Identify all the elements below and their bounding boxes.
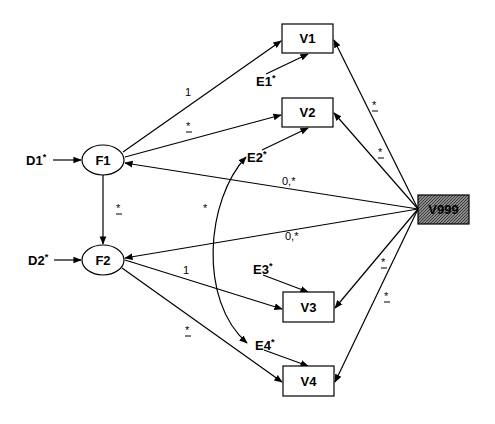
label-f1-v1: 1 [185, 86, 191, 98]
node-v2[interactable]: V2 [282, 98, 333, 127]
label-f1-v2: * [186, 120, 191, 132]
node-v1[interactable]: V1 [282, 24, 333, 53]
edge-v999-v4 [335, 209, 418, 382]
node-f1-label: F1 [95, 153, 110, 168]
node-d2[interactable]: D2* [28, 252, 49, 268]
label-f2-v4: * [185, 324, 190, 336]
node-v1-label: V1 [300, 31, 316, 46]
node-e3-label: E3* [253, 261, 273, 277]
edge-f1-v1 [123, 41, 281, 152]
node-e3[interactable]: E3* [253, 261, 273, 277]
node-d2-label: D2* [28, 252, 49, 268]
edge-e1-v1 [266, 54, 308, 74]
edge-v999-f1 [125, 163, 418, 209]
node-e1[interactable]: E1* [256, 73, 276, 89]
edge-v999-f2 [125, 209, 418, 258]
label-v999-v2: * [378, 146, 383, 158]
edge-e2-e4-covariance [213, 157, 247, 343]
node-d1-label: D1* [26, 152, 47, 168]
label-f1-f2: * [116, 202, 121, 214]
edge-v999-v3 [335, 209, 418, 308]
edges [53, 40, 418, 382]
edge-v999-v1 [334, 40, 418, 209]
node-f2[interactable]: F2 [82, 245, 124, 275]
label-v999-v1: * [372, 99, 377, 111]
node-d1[interactable]: D1* [26, 152, 47, 168]
node-e2[interactable]: E2* [247, 149, 267, 165]
label-v999-f2: 0,* [285, 230, 299, 242]
edge-f2-v4 [122, 268, 282, 382]
label-e2-e4: * [203, 202, 208, 214]
edge-v999-v2 [334, 113, 418, 209]
label-v999-v4: * [384, 290, 389, 302]
node-v4-label: V4 [301, 374, 318, 389]
node-v3[interactable]: V3 [283, 292, 334, 322]
node-v999[interactable]: V999 [418, 195, 469, 224]
edge-labels: 1 * * 1 * 0,* 0,* * * * * * [116, 86, 390, 336]
node-f2-label: F2 [95, 253, 110, 268]
label-f2-v3: 1 [183, 264, 189, 276]
node-v2-label: V2 [300, 105, 316, 120]
node-e2-label: E2* [247, 149, 267, 165]
node-v3-label: V3 [301, 300, 317, 315]
label-v999-v3: * [381, 256, 386, 268]
node-f1[interactable]: F1 [82, 145, 124, 175]
node-e1-label: E1* [256, 73, 276, 89]
node-e4-label: E4* [255, 337, 275, 353]
path-diagram: V1 V2 V3 V4 V999 F1 F2 D1* D2* E1* E2* E… [0, 0, 495, 424]
edge-e2-v2 [262, 128, 308, 150]
edge-e3-v3 [263, 275, 308, 292]
node-v4[interactable]: V4 [283, 366, 334, 396]
label-v999-f1: 0,* [282, 175, 296, 187]
node-v999-label: V999 [428, 202, 458, 217]
node-e4[interactable]: E4* [255, 337, 275, 353]
